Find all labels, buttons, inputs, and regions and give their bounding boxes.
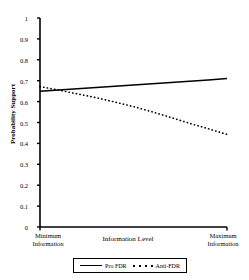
legend-entry-pro-fdr: Pro FDR [80, 263, 127, 269]
x-axis-title: Information Level [78, 236, 178, 244]
series-line-pro-fdr [40, 78, 227, 91]
series-line-anti-fdr [40, 87, 227, 135]
legend-label-anti-fdr: Anti-FDR [156, 263, 180, 269]
x-axis-max-line2: Information [198, 240, 248, 248]
legend-entry-anti-fdr: Anti-FDR [131, 263, 180, 269]
x-axis-min-caption: Minimum Information [22, 232, 74, 247]
dotted-line-swatch-icon [131, 265, 153, 267]
x-axis-max-line1: Maximum [198, 232, 248, 240]
solid-line-swatch-icon [80, 265, 102, 266]
chart-legend: Pro FDR Anti-FDR [73, 258, 187, 273]
x-axis-min-line2: Information [22, 240, 74, 248]
chart-container: Probability Support 1 0.9 0.8 0.7 0.6 0.… [0, 0, 249, 280]
axis-lines [40, 18, 227, 227]
x-axis-min-line1: Minimum [22, 232, 74, 240]
legend-label-pro-fdr: Pro FDR [105, 263, 127, 269]
x-axis-max-caption: Maximum Information [198, 232, 248, 247]
